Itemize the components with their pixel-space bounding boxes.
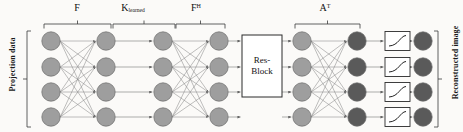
label-reconstructed-image: Reconstructed image <box>451 15 460 111</box>
network-node <box>97 58 115 76</box>
operator-base: F <box>74 2 80 13</box>
side-brackets <box>23 31 442 127</box>
label-projection-data: Projection data <box>8 29 17 101</box>
operator-brackets <box>44 21 360 29</box>
operator-bracket <box>176 24 225 29</box>
side-bracket-left <box>27 31 31 127</box>
operator-label-f: F <box>63 2 91 13</box>
network-node <box>348 108 366 126</box>
operator-label-fh: FH <box>182 2 210 13</box>
operator-bracket <box>44 24 111 29</box>
side-bracket-right <box>434 31 438 127</box>
connection-edges <box>60 41 412 117</box>
diagram-svg: Res-Block <box>0 0 463 132</box>
network-node <box>293 83 311 101</box>
operator-bracket <box>295 24 360 29</box>
activation-box <box>385 32 410 51</box>
activation-box <box>385 83 410 102</box>
operator-base: A <box>320 2 327 13</box>
network-node <box>42 58 60 76</box>
network-node <box>42 32 60 50</box>
operator-superscript: H <box>197 3 201 9</box>
network-node <box>414 32 432 50</box>
activation-boxes <box>385 32 410 127</box>
operator-bracket <box>113 24 175 29</box>
network-node <box>293 32 311 50</box>
network-node <box>97 108 115 126</box>
network-node <box>414 83 432 101</box>
figure-canvas: Res-Block Projection data Reconstructed … <box>0 0 463 132</box>
network-node <box>154 32 172 50</box>
operator-label-at: AT <box>311 2 339 13</box>
activation-box <box>385 58 410 77</box>
operator-base: K <box>121 2 128 13</box>
network-nodes <box>42 32 432 126</box>
network-node <box>414 108 432 126</box>
network-node <box>293 58 311 76</box>
network-node <box>414 58 432 76</box>
network-node <box>210 83 228 101</box>
network-node <box>348 32 366 50</box>
res-block-label: Block <box>251 66 273 76</box>
res-block: Res-Block <box>242 35 282 97</box>
network-node <box>210 32 228 50</box>
network-node <box>97 83 115 101</box>
network-node <box>154 108 172 126</box>
operator-subscript: learned <box>129 7 145 13</box>
network-node <box>42 83 60 101</box>
operator-superscript: T <box>327 3 331 9</box>
network-node <box>154 83 172 101</box>
network-node <box>210 108 228 126</box>
network-node <box>348 83 366 101</box>
network-node <box>154 58 172 76</box>
activation-box <box>385 108 410 127</box>
network-node <box>42 108 60 126</box>
network-node <box>293 108 311 126</box>
network-node <box>97 32 115 50</box>
res-block-label: Res- <box>254 55 271 65</box>
network-node <box>210 58 228 76</box>
network-node <box>348 58 366 76</box>
operator-label-k: Klearned <box>119 2 147 13</box>
